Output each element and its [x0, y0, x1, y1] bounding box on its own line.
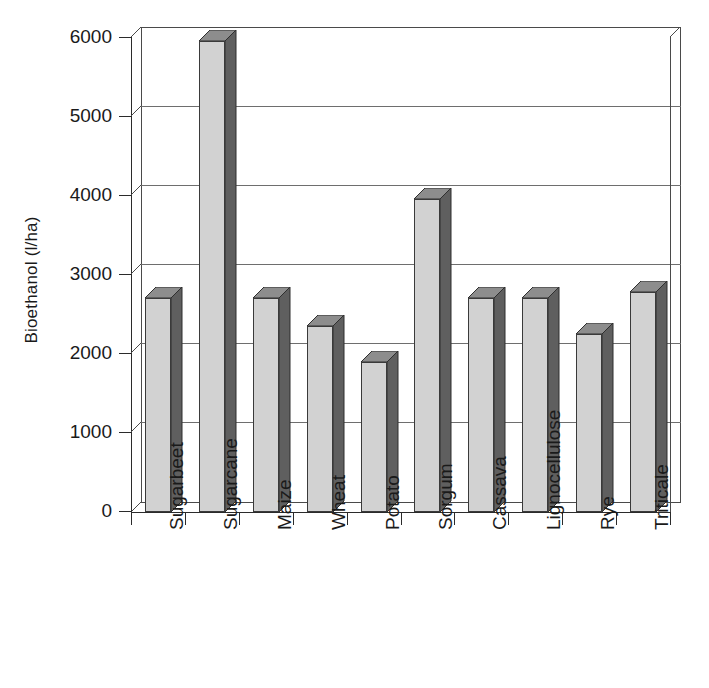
y-tick-label-2000: 2000	[32, 343, 112, 362]
x-label-cassava: Cassava	[490, 456, 509, 530]
x-label-maize: Maize	[275, 479, 294, 530]
bar-chart: Bioethanol (l/ha) 6000 5000 4000 3000 20…	[0, 0, 709, 688]
bar-side-face	[602, 323, 614, 512]
y-tick-mark	[119, 511, 131, 512]
y-tick-label-1000: 1000	[32, 422, 112, 441]
bar-side-face	[279, 287, 291, 512]
x-label-wheat: Wheat	[329, 475, 348, 530]
x-label-rye: Rye	[598, 496, 617, 530]
y-tick-label-3000: 3000	[32, 264, 112, 283]
bar-maize	[253, 287, 279, 512]
y-tick-mark	[119, 116, 131, 117]
plot-back-wall-top	[141, 27, 681, 28]
x-label-sugarcane: Sugarcane	[221, 438, 240, 530]
x-label-sorgum: Sorgum	[436, 463, 455, 530]
y-tick-mark	[119, 353, 131, 354]
x-label-triticale: Triticale	[652, 464, 671, 530]
y-tick-mark	[119, 432, 131, 433]
y-tick-mark	[119, 195, 131, 196]
bar-front-face	[576, 334, 602, 512]
bar-rye	[576, 323, 602, 512]
plot-right-front-edge	[670, 37, 671, 513]
x-label-potato: Potato	[383, 475, 402, 530]
x-label-lignocellulose: Lignocellulose	[544, 410, 563, 530]
y-tick-label-6000: 6000	[32, 27, 112, 46]
x-label-sugarbeet: Sugarbeet	[167, 442, 186, 530]
y-tick-mark	[119, 274, 131, 275]
y-axis-tick-labels: 6000 5000 4000 3000 2000 1000 0	[30, 0, 112, 688]
y-tick-label-0: 0	[32, 501, 112, 520]
plot-back-wall-right	[680, 27, 681, 503]
plot-depth-edge-top-right	[670, 27, 681, 38]
y-tick-label-5000: 5000	[32, 106, 112, 125]
x-tick-mark	[131, 512, 132, 525]
y-tick-label-4000: 4000	[32, 185, 112, 204]
plot-depth-edge-top-left	[131, 27, 142, 38]
y-tick-mark	[119, 37, 131, 38]
